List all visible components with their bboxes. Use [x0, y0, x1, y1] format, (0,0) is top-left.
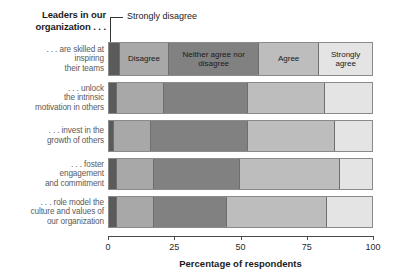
- x-axis-tick-label: 100: [365, 242, 380, 252]
- x-axis-title: Percentage of respondents: [108, 258, 373, 269]
- segment-label: Neither agree nor disagree: [169, 50, 257, 68]
- bar-row: [108, 158, 373, 190]
- segment-label: Agree: [277, 54, 300, 63]
- plot-area: DisagreeNeither agree nor disagreeAgreeS…: [108, 42, 373, 234]
- category-label: . . . invest in thegrowth of others: [0, 126, 104, 145]
- bar-row: [108, 82, 373, 114]
- bar-segment: [109, 83, 117, 113]
- x-axis-tick-label: 50: [235, 242, 245, 252]
- callout-leader-horizontal: [110, 17, 123, 18]
- bar-segment: [327, 197, 372, 227]
- bar-row: [108, 196, 373, 228]
- callout-label: Strongly disagree: [127, 11, 197, 21]
- category-label: . . . are skilled atinspiringtheir teams: [0, 45, 104, 74]
- stacked-bar: [108, 158, 373, 190]
- bar-segment: [164, 83, 248, 113]
- x-axis-tick: [108, 236, 109, 240]
- bar-segment: [117, 83, 164, 113]
- bar-segment: [335, 121, 372, 151]
- category-axis-labels: . . . are skilled atinspiringtheir teams…: [0, 42, 104, 234]
- x-axis-tick: [373, 236, 374, 240]
- chart-title: Leaders in our organization . . .: [14, 9, 106, 32]
- bar-segment: Agree: [259, 43, 319, 75]
- bar-segment: [248, 121, 335, 151]
- bar-segment: [114, 121, 151, 151]
- x-axis-tick-label: 0: [105, 242, 110, 252]
- bar-segment: [109, 159, 117, 189]
- bar-segment: [109, 197, 117, 227]
- segment-label: Disagree: [127, 54, 161, 63]
- bar-segment: [248, 83, 324, 113]
- bar-segment: [117, 159, 154, 189]
- category-label: . . . role model theculture and values o…: [0, 198, 104, 227]
- callout-leader-vertical: [110, 17, 111, 43]
- bar-row: [108, 120, 373, 152]
- bar-segment: [240, 159, 340, 189]
- x-axis-tick: [307, 236, 308, 240]
- stacked-bar: DisagreeNeither agree nor disagreeAgreeS…: [108, 42, 373, 76]
- segment-label: Strongly agree: [319, 50, 372, 68]
- stacked-bar: [108, 196, 373, 228]
- bar-segment: [151, 121, 248, 151]
- bar-segment: [154, 159, 241, 189]
- bar-segment: Strongly agree: [319, 43, 372, 75]
- x-axis-tick: [174, 236, 175, 240]
- bar-segment: [109, 43, 120, 75]
- bar-segment: [340, 159, 372, 189]
- x-axis-tick: [241, 236, 242, 240]
- chart-container: Leaders in our organization . . . Strong…: [0, 0, 401, 279]
- category-label: . . . unlockthe intrinsicmotivation in o…: [0, 84, 104, 113]
- stacked-bar: [108, 82, 373, 114]
- stacked-bar: [108, 120, 373, 152]
- bar-segment: [325, 83, 372, 113]
- bar-segment: [154, 197, 228, 227]
- strongly-disagree-callout: Strongly disagree: [110, 12, 260, 46]
- x-axis-tick-label: 75: [302, 242, 312, 252]
- bar-segment: [117, 197, 154, 227]
- bar-segment: Neither agree nor disagree: [169, 43, 258, 75]
- bar-row: DisagreeNeither agree nor disagreeAgreeS…: [108, 42, 373, 76]
- bar-segment: Disagree: [120, 43, 170, 75]
- x-axis-tick-label: 25: [169, 242, 179, 252]
- bar-segment: [227, 197, 327, 227]
- category-label: . . . fosterengagementand commitment: [0, 160, 104, 189]
